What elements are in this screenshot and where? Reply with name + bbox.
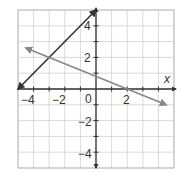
y-tick-label: −4 <box>78 147 92 161</box>
y-tick-label: 2 <box>84 51 91 65</box>
coordinate-graph: x 0 −4 −2 2 4 2 −2 −4 <box>0 0 180 172</box>
x-tick-label: 2 <box>123 93 130 107</box>
y-tick-label: −2 <box>78 115 92 129</box>
x-axis-label: x <box>163 72 171 86</box>
y-tick-label: 4 <box>84 19 91 33</box>
x-tick-label: −2 <box>52 93 66 107</box>
x-tick-label: −4 <box>21 93 35 107</box>
origin-label: 0 <box>85 92 92 106</box>
